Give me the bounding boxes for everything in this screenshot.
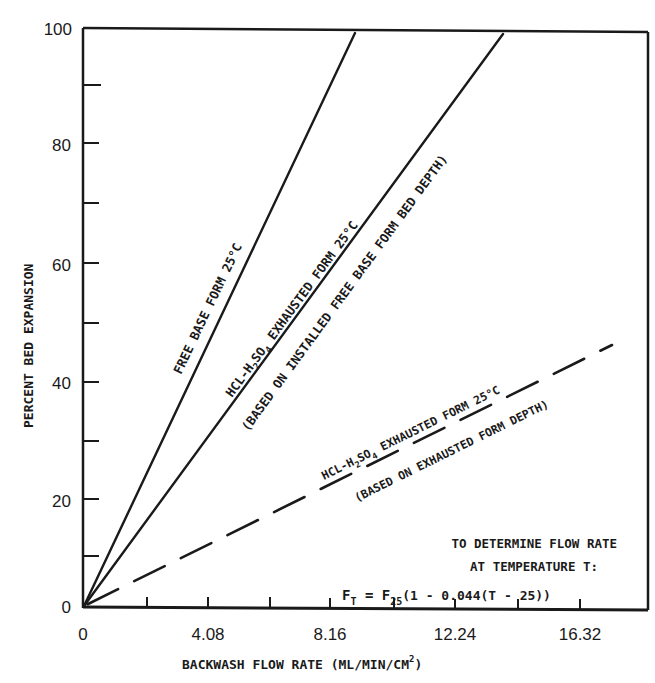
y-tick-80: 80: [52, 136, 71, 155]
y-tick-0: 0: [62, 598, 71, 617]
x-tick-8-16: 8.16: [313, 625, 346, 644]
x-tick-12-24: 12.24: [434, 625, 477, 644]
temperature-note: TO DETERMINE FLOW RATE AT TEMPERATURE T:: [451, 536, 617, 574]
plot-frame: [83, 28, 648, 610]
y-tick-labels: 100 80 60 40 20 0: [44, 20, 72, 617]
temperature-formula: FT = F25(1 - 0.044(T - 25)): [342, 587, 551, 607]
hcl-installed-line: [84, 34, 503, 606]
note-line-1: TO DETERMINE FLOW RATE: [451, 536, 617, 551]
note-line-2: AT TEMPERATURE T:: [470, 559, 598, 574]
x-tick-4-08: 4.08: [191, 625, 224, 644]
y-ticks: [83, 85, 101, 556]
y-tick-40: 40: [52, 374, 71, 393]
x-tick-labels: 0 4.08 8.16 12.24 16.32: [78, 625, 601, 644]
series-lines: [84, 33, 612, 606]
y-axis-label: PERCENT BED EXPANSION: [21, 263, 36, 428]
x-tick-0: 0: [78, 625, 87, 644]
y-tick-20: 20: [52, 492, 71, 511]
x-axis-label: BACKWASH FLOW RATE (ML/MIN/CM2): [182, 654, 422, 672]
based-installed-annotation: (BASED ON INSTALLED FREE BASE FORM BED D…: [238, 152, 450, 434]
y-tick-100: 100: [44, 20, 72, 39]
x-tick-16-32: 16.32: [559, 625, 602, 644]
bed-expansion-chart: 100 80 60 40 20 0 0 4.08 8.16 12.24 16.3…: [0, 0, 655, 683]
free-base-annotation: FREE BASE FORM 25°C: [170, 241, 245, 377]
y-tick-60: 60: [52, 256, 71, 275]
